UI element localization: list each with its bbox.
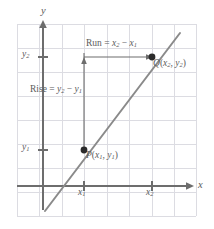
point-q-label: Q(x2, y2)	[153, 59, 186, 69]
tick-label-x2-subscript: 2	[150, 190, 153, 197]
run-term2-subscript: 1	[134, 41, 137, 48]
tick-label-y1-subscript: 1	[26, 145, 29, 152]
tick-marks	[38, 57, 152, 191]
tick-label-y1: y1	[22, 143, 29, 153]
rise-prefix: Rise =	[30, 84, 57, 94]
point-q-name: Q	[153, 58, 160, 68]
run-operator: −	[119, 38, 129, 48]
run-arrow	[84, 53, 153, 61]
rise-term2-subscript: 1	[79, 87, 82, 94]
point-p-close-paren: )	[115, 150, 118, 160]
y-axis-label: y	[41, 6, 46, 17]
rise-annotation-label: Rise = y2 − y1	[30, 85, 82, 95]
rise-arrow	[81, 57, 87, 148]
point-q-close-paren: )	[183, 58, 186, 68]
tick-label-x1: x1	[78, 188, 85, 198]
slope-diagram-figure: y x y2 y1 x1 x2 Run = x2 − x1 Rise = y2 …	[0, 0, 214, 229]
diagram-canvas	[0, 0, 214, 229]
tick-label-y2: y2	[22, 50, 29, 60]
x-axis-arrowhead	[186, 182, 194, 190]
rise-operator: −	[64, 84, 74, 94]
x-axis-label: x	[198, 180, 203, 191]
tick-label-x1-subscript: 1	[82, 190, 85, 197]
run-annotation-label: Run = x2 − x1	[86, 39, 137, 49]
grid-lines	[17, 24, 196, 216]
tick-label-y2-subscript: 2	[26, 52, 29, 59]
tick-label-x2: x2	[146, 188, 153, 198]
run-prefix: Run =	[86, 38, 112, 48]
point-p-label: P(x1, y1)	[86, 151, 118, 161]
